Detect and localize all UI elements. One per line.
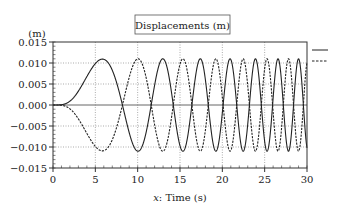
x-tick-label: 5 [92, 174, 98, 185]
x-tick-label: 20 [216, 174, 229, 185]
displacement-chart: Displacements (m) (m) 0.0150.0100.0050.0… [0, 0, 342, 208]
y-tick-label: −0.015 [10, 163, 47, 174]
y-axis-ticks: 0.0150.0100.0050.000−0.005−0.010−0.015 [10, 37, 56, 174]
y-tick-label: −0.010 [10, 142, 47, 153]
x-tick-label: 10 [131, 174, 144, 185]
y-tick-label: 0.005 [18, 79, 47, 90]
x-tick-label: 0 [50, 174, 56, 185]
x-tick-label: 30 [301, 174, 314, 185]
y-tick-label: −0.005 [10, 121, 47, 132]
legend [312, 50, 328, 61]
y-tick-label: 0.000 [18, 100, 47, 111]
x-tick-label: 15 [174, 174, 187, 185]
x-tick-label: 25 [258, 174, 271, 185]
y-tick-label: 0.015 [18, 37, 47, 48]
chart-title: Displacements (m) [135, 15, 230, 34]
x-axis-label: x: Time (s) [153, 192, 207, 203]
x-axis-label-text: : Time (s) [159, 192, 207, 203]
y-tick-label: 0.010 [18, 58, 47, 69]
title-text: Displacements (m) [135, 20, 230, 31]
